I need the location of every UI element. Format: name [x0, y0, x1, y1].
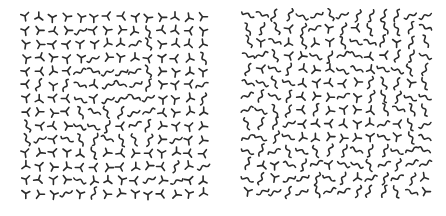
tripod-mark: [60, 10, 71, 21]
wiggle-mark: [285, 187, 291, 199]
wiggle-mark: [257, 186, 270, 199]
tripod-mark: [35, 160, 46, 171]
wiggle-mark: [74, 78, 87, 91]
tripod-mark: [184, 93, 195, 104]
tripod-mark: [49, 83, 57, 91]
wiggle-mark: [364, 36, 377, 49]
tripod-mark: [20, 24, 31, 35]
wiggle-mark: [364, 145, 377, 158]
wiggle-mark: [87, 121, 100, 134]
wiggle-mark: [327, 144, 333, 156]
tripod-mark: [324, 78, 335, 89]
wiggle-mark: [379, 103, 392, 116]
wiggle-mark: [128, 91, 141, 104]
wiggle-mark: [241, 146, 254, 159]
wiggle-mark: [255, 108, 267, 114]
wiggle-mark: [171, 175, 184, 188]
wiggle-mark: [241, 92, 253, 98]
tripod-mark: [36, 108, 44, 116]
tripod-mark: [405, 77, 416, 88]
wiggle-mark: [390, 145, 403, 158]
wiggle-mark: [114, 81, 126, 87]
tripod-mark: [49, 176, 57, 184]
tripod-mark: [200, 107, 208, 115]
tripod-mark: [169, 93, 180, 104]
tripod-mark: [271, 162, 279, 170]
wiggle-mark: [198, 164, 210, 170]
tripod-mark: [393, 120, 401, 128]
tripod-mark: [144, 192, 152, 200]
tripod-mark: [101, 148, 112, 159]
tripod-mark: [20, 10, 31, 21]
wiggle-mark: [337, 52, 349, 58]
wiggle-mark: [274, 23, 280, 35]
tripod-mark: [36, 26, 44, 34]
tripod-mark: [170, 55, 178, 63]
tripod-mark: [49, 26, 60, 37]
tripod-mark: [128, 26, 139, 37]
wiggle-mark: [103, 106, 109, 118]
wiggle-mark: [269, 94, 281, 100]
wiggle-mark: [89, 109, 101, 115]
wiggle-mark: [315, 173, 321, 185]
tripod-mark: [184, 106, 195, 117]
wiggle-mark: [376, 34, 389, 47]
tripod-mark: [76, 149, 84, 157]
wiggle-mark: [256, 8, 269, 21]
wiggle-mark: [146, 65, 152, 77]
wiggle-mark: [395, 91, 401, 103]
wiggle-mark: [369, 91, 375, 103]
tripod-mark: [51, 109, 59, 117]
tripod-mark: [63, 67, 71, 75]
wiggle-mark: [419, 135, 431, 141]
tripod-mark: [61, 95, 69, 103]
tripod-mark: [117, 38, 125, 46]
tripod-mark: [75, 164, 83, 172]
wiggle-mark: [268, 63, 281, 76]
tripod-mark: [19, 38, 30, 49]
tripod-mark: [77, 55, 85, 63]
tripod-mark: [48, 15, 56, 23]
tripod-mark: [284, 22, 295, 33]
wiggle-mark: [310, 157, 323, 170]
wiggle-mark: [75, 29, 87, 35]
tripod-mark: [183, 13, 194, 24]
wiggle-mark: [36, 79, 42, 91]
wiggle-mark: [89, 133, 102, 146]
tripod-mark: [184, 149, 192, 157]
wiggle-mark: [324, 51, 337, 64]
wiggle-mark: [287, 9, 293, 21]
tripod-mark: [311, 133, 319, 141]
wiggle-mark: [269, 104, 282, 117]
wiggle-mark: [324, 188, 336, 194]
wiggle-mark: [310, 103, 323, 116]
wiggle-mark: [103, 83, 115, 89]
wiggle-mark: [60, 133, 73, 146]
wiggle-mark: [313, 146, 319, 158]
wiggle-mark: [256, 52, 268, 58]
tripod-mark: [155, 38, 166, 49]
wiggle-mark: [258, 173, 264, 185]
wiggle-mark: [74, 94, 87, 107]
wiggle-mark: [405, 36, 418, 49]
wiggle-mark: [406, 160, 418, 166]
wiggle-mark: [102, 98, 114, 104]
wiggle-mark: [241, 106, 253, 112]
tripod-mark: [74, 187, 85, 198]
tripod-mark: [313, 92, 321, 100]
wiggle-mark: [241, 131, 254, 144]
tripod-mark: [22, 161, 30, 169]
tripod-mark: [366, 65, 377, 76]
wiggle-mark: [282, 131, 295, 144]
wiggle-mark: [363, 24, 376, 37]
tripod-mark: [285, 38, 293, 46]
wiggle-mark: [128, 111, 140, 117]
wiggle-mark: [268, 145, 281, 158]
tripod-mark: [132, 162, 140, 170]
wiggle-mark: [34, 137, 46, 143]
wiggle-mark: [271, 76, 277, 88]
tripod-mark: [268, 171, 279, 182]
right-texture-panel: [240, 8, 436, 204]
wiggle-mark: [379, 21, 392, 34]
tripod-mark: [184, 120, 195, 131]
